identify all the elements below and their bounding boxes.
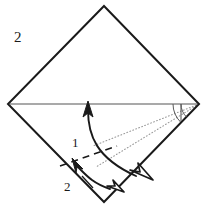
fold-arrow-2-label: 2 <box>64 180 71 193</box>
origami-step-diagram: 2 1 2 <box>0 0 210 212</box>
diagram-canvas <box>0 0 210 212</box>
valley-fold-dashed-line <box>60 146 117 166</box>
fold-arrow-1-hollow-head <box>130 163 153 180</box>
fold-arrow-1-label: 1 <box>72 136 79 149</box>
fold-arrow-1 <box>83 101 153 180</box>
step-number: 2 <box>14 30 22 45</box>
fold-arrow-1-curve <box>88 110 136 176</box>
dotted-guide-upper <box>93 104 199 146</box>
fold-arrow-2 <box>72 158 124 192</box>
